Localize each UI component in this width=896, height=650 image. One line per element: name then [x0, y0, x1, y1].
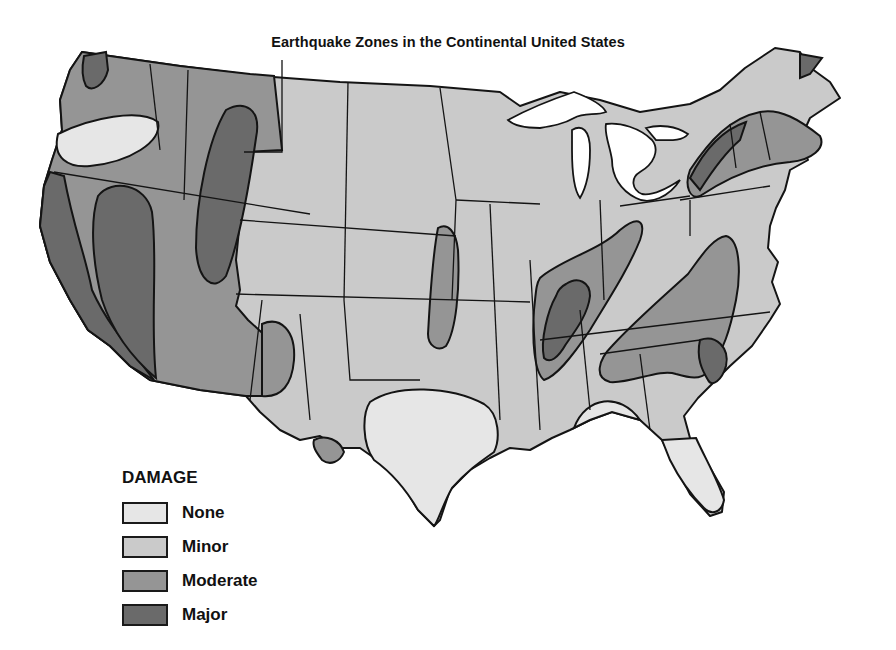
legend-swatch-none — [122, 502, 168, 524]
legend-item-major: Major — [122, 598, 258, 632]
legend-swatch-moderate — [122, 570, 168, 592]
legend-item-none: None — [122, 496, 258, 530]
legend-swatch-minor — [122, 536, 168, 558]
legend-label: None — [182, 503, 225, 523]
legend-item-minor: Minor — [122, 530, 258, 564]
legend: DAMAGE None Minor Moderate Major — [122, 468, 258, 632]
legend-swatch-major — [122, 604, 168, 626]
legend-label: Minor — [182, 537, 228, 557]
zone-texas-none — [364, 389, 497, 526]
legend-title: DAMAGE — [122, 468, 258, 488]
legend-label: Moderate — [182, 571, 258, 591]
zone-florida-none — [662, 438, 724, 512]
legend-label: Major — [182, 605, 227, 625]
legend-item-moderate: Moderate — [122, 564, 258, 598]
